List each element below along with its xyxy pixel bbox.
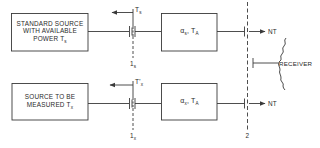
measured-source-line-1: SOURCE TO BE [25,93,75,101]
standard-source-line-3: POWER Ts [33,35,67,45]
standard-source-line-2: WITH AVAILABLE [23,27,77,35]
bottom-network-label: αx, TA [162,84,217,120]
measured-source-label: SOURCE TO BE MEASURED Tx [12,84,88,120]
plane-2-label: 2 [246,132,250,140]
bottom-reflected-label: T'x [135,78,143,88]
standard-source-line-1: STANDARD SOURCE [17,20,84,28]
receiver-label: RECEIVER [279,60,312,68]
top-reflected-label: Ts [135,6,142,16]
bottom-output-label: NT [268,100,277,108]
top-output-label: NT [268,28,277,36]
bottom-junction-1-connector [130,98,136,109]
plane-1x-label: 1x [130,132,136,142]
measured-source-line-2: MEASURED Tx [27,101,73,111]
standard-source-label: STANDARD SOURCE WITH AVAILABLE POWER Ts [12,14,88,51]
plane-1s-label: 1s [130,60,136,70]
top-network-label: αs, TA [162,14,217,51]
top-junction-1-connector [130,26,136,37]
